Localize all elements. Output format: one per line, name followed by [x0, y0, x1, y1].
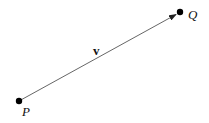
vector-diagram: v P Q [0, 0, 209, 123]
point-p-label: P [21, 104, 30, 119]
point-q [177, 9, 183, 15]
point-q-label: Q [188, 7, 198, 22]
vector-label: v [93, 43, 100, 58]
